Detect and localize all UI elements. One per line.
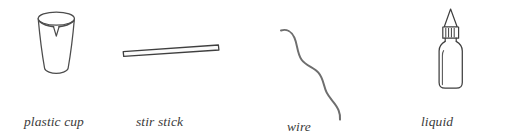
wire-icon — [272, 22, 358, 126]
stir-stick-icon — [118, 40, 224, 64]
caption-line: liquid — [421, 114, 472, 130]
caption-line: wire — [287, 119, 311, 135]
liquid-detergent-caption: liquid detergent — [421, 83, 472, 139]
caption-line: stir stick — [136, 114, 183, 130]
plastic-cup-caption: plastic cup with notch — [24, 83, 84, 139]
wire-caption: wire — [287, 88, 311, 139]
plastic-cup-with-notch-icon — [30, 10, 90, 84]
caption-line: plastic cup — [24, 114, 84, 130]
stir-stick-caption: stir stick — [136, 83, 183, 139]
materials-illustration-figure: plastic cup with notch stir stick wire — [0, 0, 516, 139]
